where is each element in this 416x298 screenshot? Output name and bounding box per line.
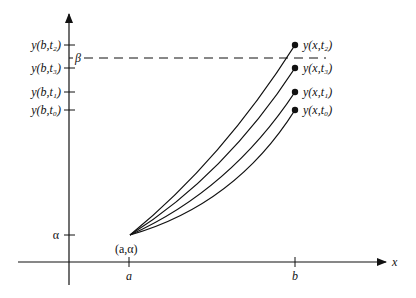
endpoint-t0	[292, 107, 298, 113]
y-tick-label-alpha: α	[53, 228, 60, 242]
beta-label: β	[74, 51, 81, 65]
shooting-method-diagram: x a b y(b,t₂) y(b,t₃) y(b,t₁) y(b,t₀) α …	[0, 0, 416, 298]
endpoint-t3	[292, 65, 298, 71]
curve-t3	[130, 68, 295, 235]
y-tick-label-t2: y(b,t₂)	[30, 38, 61, 52]
y-tick-label-t3: y(b,t₃)	[30, 61, 61, 75]
curve-t0	[130, 110, 295, 235]
curve-label-t0: y(x,t₀)	[302, 103, 332, 117]
endpoint-t2	[292, 42, 298, 48]
curve-label-t1: y(x,t₁)	[302, 85, 332, 99]
start-point-label: (a,α)	[115, 242, 138, 256]
x-axis-label: x	[391, 255, 398, 269]
y-tick-label-t0: y(b,t₀)	[30, 103, 61, 117]
x-tick-label-b: b	[292, 269, 298, 283]
endpoint-t1	[292, 89, 298, 95]
y-tick-label-t1: y(b,t₁)	[30, 85, 61, 99]
curve-label-t3: y(x,t₃)	[302, 61, 332, 75]
x-tick-label-a: a	[126, 269, 132, 283]
curve-t2	[130, 45, 295, 235]
curve-label-t2: y(x,t₂)	[302, 38, 332, 52]
